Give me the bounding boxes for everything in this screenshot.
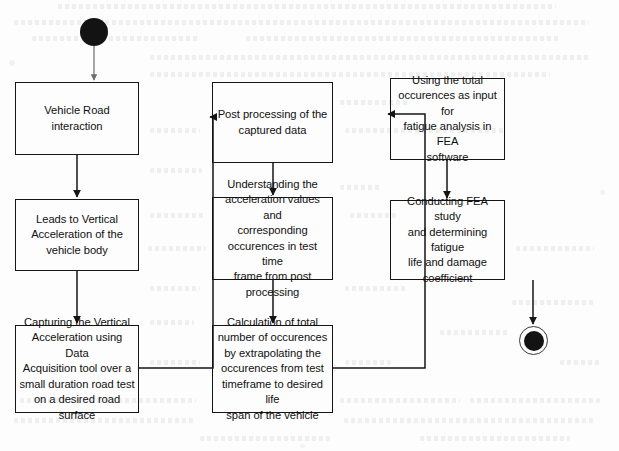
node-calculation-of-total-occurences: Calculation of total number of occurence…: [212, 325, 333, 413]
end-node: [519, 326, 548, 355]
node-leads-to-vertical-acceleration: Leads to Vertical Acceleration of the ve…: [15, 199, 139, 271]
node-understanding-acceleration-values: Understanding the acceleration values an…: [212, 197, 333, 280]
edge-n3-to-n4: [139, 117, 213, 368]
node-conducting-fea-study: Conducting FEA study and determining fat…: [390, 200, 505, 280]
node-post-processing: Post processing of the captured data: [212, 82, 333, 163]
node-label: Calculation of total number of occurence…: [216, 315, 329, 423]
node-label: Using the total occurences as input for …: [394, 73, 501, 165]
node-label: Conducting FEA study and determining fat…: [394, 194, 501, 286]
node-label: Capturing the Vertical Acceleration usin…: [19, 315, 135, 423]
start-node: [80, 18, 108, 46]
node-capturing-vertical-acceleration: Capturing the Vertical Acceleration usin…: [15, 325, 139, 413]
node-using-total-occurences-fea-input: Using the total occurences as input for …: [390, 78, 505, 160]
node-label: Vehicle Road interaction: [19, 103, 135, 134]
node-label: Leads to Vertical Acceleration of the ve…: [31, 212, 123, 258]
node-vehicle-road-interaction: Vehicle Road interaction: [15, 82, 139, 155]
flowchart-page: Vehicle Road interaction Leads to Vertic…: [0, 0, 619, 451]
node-label: Post processing of the captured data: [218, 107, 328, 138]
node-label: Understanding the acceleration values an…: [216, 177, 329, 300]
